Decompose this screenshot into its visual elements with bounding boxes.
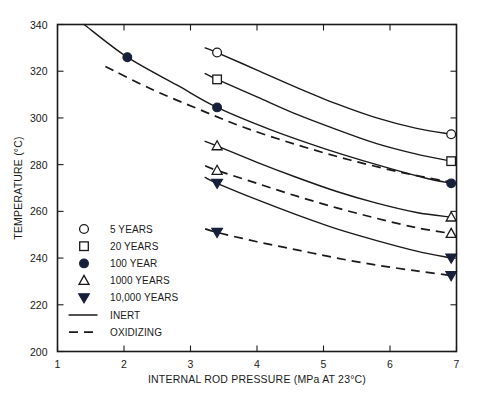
curve-20-years-inert [205,74,451,162]
y-tick-label: 280 [30,159,48,171]
y-tick-label: 200 [30,346,48,358]
marker-filled-triangle-down [446,272,457,281]
legend-marker-open-triangle-up [79,275,89,284]
legend-marker-open-square [80,242,89,251]
data-curves [84,25,451,276]
curve-10-000-years-inert [205,177,451,258]
marker-filled-triangle-down [446,254,457,263]
curve-1000-years-oxidizing [205,166,451,234]
x-tick-label: 4 [254,358,260,370]
marker-open-square [447,157,456,166]
y-axis-title: TEMPERATURE (°C) [12,136,24,239]
legend-label: INERT [110,310,140,321]
x-tick-label: 3 [188,358,194,370]
y-tick-label: 220 [30,299,48,311]
x-tick-label: 7 [454,358,460,370]
y-tick-label: 260 [30,205,48,217]
y-tick-label: 340 [30,19,48,31]
y-tick-label: 320 [30,65,48,77]
legend-label: 1000 YEARS [110,275,170,286]
x-tick-label: 6 [387,358,393,370]
curve-10-000-years-oxidizing [205,229,451,276]
legend-marker-filled-circle [80,259,89,268]
marker-open-triangle-up [446,228,456,237]
legend-label: 5 YEARS [110,224,153,235]
legend-marker-filled-triangle-down [79,294,90,303]
legend-label: OXIDIZING [110,327,162,338]
marker-open-square [213,75,222,84]
marker-filled-circle [213,103,222,112]
y-tick-label: 300 [30,112,48,124]
curve-1000-years-inert [205,141,451,217]
chart-legend: 5 YEARS20 YEARS100 YEAR1000 YEARS10,000 … [69,224,179,338]
marker-open-circle [447,130,456,139]
legend-marker-open-circle [80,225,89,234]
marker-filled-circle [447,179,456,188]
marker-open-circle [213,48,222,57]
marker-filled-triangle-down [212,179,223,188]
y-tick-label: 240 [30,252,48,264]
legend-label: 100 YEAR [110,258,157,269]
marker-open-triangle-up [212,165,222,174]
x-tick-label: 1 [55,358,61,370]
curve-100-year-inert [84,25,451,184]
x-tick-label: 5 [321,358,327,370]
x-tick-label: 2 [121,358,127,370]
temperature-pressure-chart: 200220240260280300320340 1234567 5 YEARS… [0,0,481,400]
y-axis-ticks: 200220240260280300320340 [30,19,457,358]
figure-container: 200220240260280300320340 1234567 5 YEARS… [0,0,481,400]
legend-label: 20 YEARS [110,241,159,252]
x-axis-title: INTERNAL ROD PRESSURE (MPa AT 23°C) [148,373,366,385]
legend-label: 10,000 YEARS [110,292,179,303]
marker-filled-circle [123,53,132,62]
